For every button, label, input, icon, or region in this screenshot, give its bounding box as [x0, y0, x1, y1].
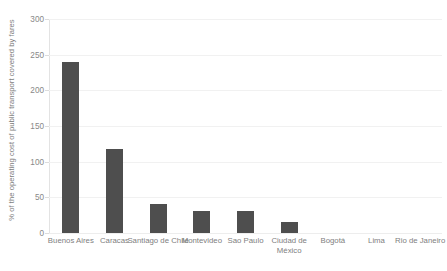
- x-axis-tick-label: Rio de Janeiro: [389, 236, 447, 246]
- bar: [237, 211, 254, 233]
- gridline: [49, 233, 442, 234]
- y-axis-tick-label: 100: [2, 157, 44, 166]
- y-axis-tick-label: 150: [2, 122, 44, 131]
- bar: [150, 204, 167, 233]
- x-axis-tick-labels: Buenos AiresCaracasSantiago de ChileMont…: [49, 236, 442, 270]
- y-axis-tick-label: 300: [2, 15, 44, 24]
- y-axis-tick-labels: 050100150200250300: [0, 19, 44, 233]
- y-axis-tick-label: 50: [2, 193, 44, 202]
- bar: [62, 62, 79, 233]
- bars-layer: [49, 19, 442, 233]
- bar: [281, 222, 298, 233]
- y-axis-tick-label: 0: [2, 229, 44, 238]
- y-axis-tick-label: 250: [2, 50, 44, 59]
- plot-area: [49, 19, 442, 233]
- bar: [106, 149, 123, 233]
- bar: [193, 211, 210, 233]
- y-axis-tick-label: 200: [2, 86, 44, 95]
- bar-chart: % of the operating cost of public transp…: [0, 0, 447, 271]
